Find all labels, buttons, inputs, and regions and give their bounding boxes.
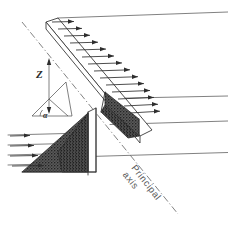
figure-root: Z α Principal axis — [0, 0, 228, 227]
reference-line-left-a — [8, 134, 66, 136]
angle-cross-ray — [49, 99, 68, 116]
angle-closing-ray — [66, 82, 72, 116]
z-dimension-arrowhead-bottom — [47, 107, 51, 114]
angle-alpha-label: α — [43, 111, 48, 120]
z-dimension-arrowhead-top — [47, 58, 51, 65]
reference-line-lower — [90, 153, 228, 157]
left-load-arrow-2 — [10, 143, 34, 147]
left-web-and-stress-group — [22, 108, 96, 175]
left-load-arrow-3 — [10, 153, 38, 157]
principal-axis-label-group: Principal axis — [121, 162, 164, 209]
beam-diagram-svg: Z α Principal axis — [0, 0, 228, 227]
beam-web-plane — [88, 108, 96, 172]
left-load-arrow-1 — [10, 133, 30, 137]
flange-top-extension-line — [58, 12, 228, 18]
angle-construction-group: α — [32, 82, 72, 120]
z-axis-label: Z — [35, 68, 43, 80]
z-dimension-group: Z — [35, 58, 51, 114]
